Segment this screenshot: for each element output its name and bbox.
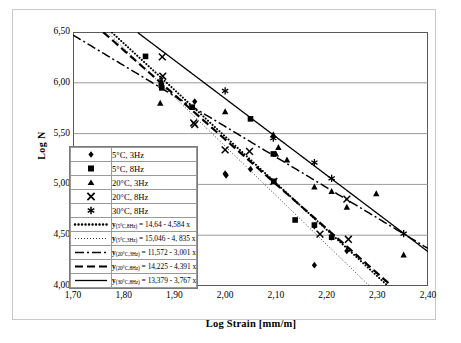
y-tick-label: 6,00 [36,78,70,88]
y-tick-label: 4,50 [36,230,70,240]
x-axis-tick-labels: 1,701,801,902,002,102,202,302,40 [0,291,461,305]
legend-row-marker: 20°C, 8Hz [71,190,197,204]
marker-square [329,234,335,240]
legend-series-label: 5°C, 3Hz [112,148,197,162]
marker-triangle [157,100,163,106]
x-tick-label: 2,40 [408,291,448,301]
legend-row-equation: y(5°C,8Hz) = 14,64 - 4,584 x [71,218,197,232]
x-axis-title: Log Strain [mm/m] [73,318,429,329]
marker-square [312,222,318,228]
legend-swatch-triangle [73,177,109,188]
data-point-triangle [328,188,334,194]
marker-triangle [222,108,228,114]
marker-diamond [248,166,253,173]
data-point-triangle [157,100,163,106]
marker-diamond [312,262,317,269]
legend-row-marker: 20°C, 3Hz [71,176,197,190]
data-point-square [292,217,298,223]
legend-equation-label: y(30°C,8Hz) = 13,379 - 3,767 x [112,274,197,288]
data-point-square [329,234,335,240]
data-point-triangle [222,108,228,114]
legend-table: 5°C, 3Hz5°C, 8Hz20°C, 3Hz20°C, 8Hz30°C, … [70,147,197,288]
x-tick-label: 2,10 [256,291,296,301]
x-tick-label: 1,90 [154,291,194,301]
legend-series-label: 20°C, 3Hz [112,176,197,190]
legend-swatch-fine-dotted [73,233,109,244]
data-point-x [317,231,324,238]
data-point-square [143,54,149,60]
data-point-diamond [312,262,317,269]
legend-marker-swatch [71,162,112,176]
legend-marker-swatch [71,148,112,162]
data-point-x [222,146,229,153]
legend-marker-swatch [71,190,112,204]
marker-diamond [192,98,197,105]
legend-row-marker: 5°C, 3Hz [71,148,197,162]
marker-triangle [275,144,281,150]
legend-swatch-x [73,191,109,202]
marker-triangle [373,190,379,196]
legend-line-swatch [71,274,112,288]
marker-square [248,116,254,122]
legend-series-label: 20°C, 8Hz [112,190,197,204]
legend-series-label: 5°C, 8Hz [112,162,197,176]
data-point-triangle [344,204,350,210]
data-point-triangle [284,157,290,163]
data-point-triangle [373,190,379,196]
x-tick-label: 2,00 [205,291,245,301]
legend-marker-swatch [71,204,112,218]
legend-equation-label: y(5°C,3Hz) = 15,046 - 4, 835 x [112,232,197,246]
x-tick-label: 2,20 [307,291,347,301]
marker-triangle [344,204,350,210]
legend-row-marker: 30°C, 8Hz [71,204,197,218]
legend-row-marker: 5°C, 8Hz [71,162,197,176]
marker-square [189,104,195,110]
legend-marker-swatch [71,176,112,190]
marker-square [159,85,165,91]
legend-line-swatch [71,232,112,246]
y-tick-label: 5,50 [36,129,70,139]
legend-row-equation: y(20°C,3Hz) = 11,572 - 3,001 x [71,246,197,260]
data-point-square [248,116,254,122]
x-tick-label: 1,80 [104,291,144,301]
legend-row-equation: y(30°C,8Hz) = 13,379 - 3,767 x [71,274,197,288]
x-tick-label: 2,30 [357,291,397,301]
marker-triangle [400,252,406,258]
marker-triangle [328,188,334,194]
data-point-asterisk [222,87,228,94]
legend-row-equation: y(20°C,8Hz) = 14,225 - 4,391 x [71,260,197,274]
legend-swatch-solid [73,275,109,286]
data-point-x [246,148,253,155]
legend-row-equation: y(5°C,3Hz) = 15,046 - 4, 835 x [71,232,197,246]
legend-equation-label: y(20°C,3Hz) = 11,572 - 3,001 x [112,246,197,260]
data-point-square [159,85,165,91]
data-point-x [345,236,352,243]
legend-line-swatch [71,218,112,232]
legend-series-label: 30°C, 8Hz [112,204,197,218]
marker-square [143,54,149,60]
data-point-square [312,222,318,228]
legend-swatch-thick-dotted [73,219,109,230]
legend-line-swatch [71,246,112,260]
data-point-x [159,53,166,60]
legend-equation-label: y(20°C,8Hz) = 14,225 - 4,391 x [112,260,197,274]
legend-equation-label: y(5°C,8Hz) = 14,64 - 4,584 x [112,218,197,232]
legend-swatch-dash-dot [73,247,109,258]
chart-legend: 5°C, 3Hz5°C, 8Hz20°C, 3Hz20°C, 8Hz30°C, … [69,146,198,289]
chart-figure: Log N Log Strain [mm/m] 6,506,005,505,00… [0,0,461,343]
legend-swatch-square [73,163,109,174]
y-tick-label: 5,00 [36,179,70,189]
data-point-diamond [248,166,253,173]
y-tick-label: 6,50 [36,27,70,37]
data-point-square [189,104,195,110]
legend-line-swatch [71,260,112,274]
marker-square [292,217,298,223]
data-point-triangle [400,252,406,258]
legend-swatch-diamond [73,149,109,160]
legend-swatch-dashed [73,261,109,272]
x-tick-label: 1,70 [53,291,93,301]
data-point-x [343,196,350,203]
legend-swatch-asterisk [73,205,109,216]
marker-triangle [284,157,290,163]
data-point-diamond [192,98,197,105]
